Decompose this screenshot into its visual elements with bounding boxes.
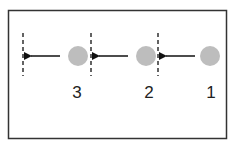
step-label: 2 [144, 83, 153, 102]
circle-icon [68, 46, 88, 66]
circle-icon [200, 46, 220, 66]
step-label: 3 [72, 83, 81, 102]
diagram-frame [9, 11, 227, 139]
step-label: 1 [206, 83, 215, 102]
circle-icon [136, 46, 156, 66]
diagram-canvas: 3 2 1 [0, 0, 236, 151]
